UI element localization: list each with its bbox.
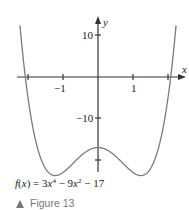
- caption-eq: ) = 3: [27, 177, 48, 189]
- tick-label-neg10: −10: [76, 113, 93, 124]
- y-axis-label: y: [103, 17, 108, 28]
- function-caption: f(x) = 3x4 − 9x2 − 17: [15, 177, 104, 189]
- x-axis-label: x: [182, 64, 187, 75]
- figure-label: Figure 13: [16, 197, 74, 209]
- caption-minus9: − 9: [56, 177, 73, 189]
- tick-label-10: 10: [82, 30, 93, 41]
- tick-label-neg1: −1: [54, 83, 66, 94]
- figure-label-text: Figure 13: [30, 197, 74, 209]
- tick-label-1: 1: [131, 83, 137, 94]
- triangle-icon: [16, 200, 24, 208]
- caption-tail: − 17: [82, 177, 105, 189]
- y-axis-arrow-icon: [95, 16, 101, 24]
